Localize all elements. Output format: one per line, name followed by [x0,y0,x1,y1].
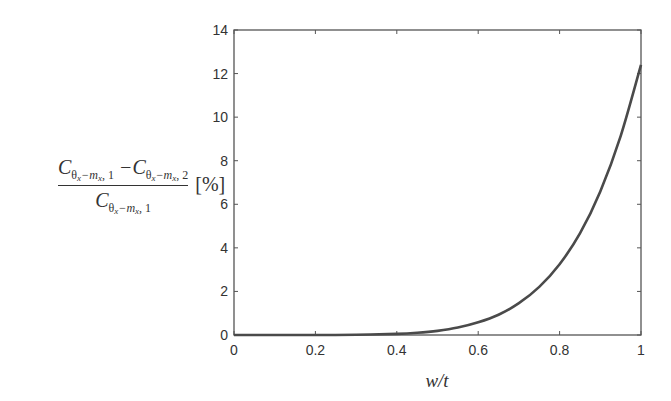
y-tick-label: 4 [220,240,228,256]
y-tick-label: 10 [212,109,228,125]
y-tick-label: 12 [212,66,228,82]
plot-area [234,30,641,335]
y-axis-label: Cθx−mx, 1 −Cθx−mx, 2 Cθx−mx, 1 [%] [58,156,225,216]
x-axis-label: w/t [425,370,449,391]
x-tick-label: 0.2 [306,342,326,358]
y-label-numerator: Cθx−mx, 1 −Cθx−mx, 2 [58,156,188,183]
y-label-unit: [%] [195,173,225,196]
x-tick-label: 0.6 [468,342,488,358]
x-tick-label: 0 [230,342,238,358]
y-tick-label: 2 [220,283,228,299]
y-tick-label: 0 [220,327,228,343]
y-tick-label: 14 [212,22,228,38]
fraction-bar [58,185,188,186]
y-label-denominator: Cθx−mx, 1 [58,189,188,216]
x-tick-label: 1 [637,342,645,358]
x-tick-label: 0.8 [550,342,570,358]
y-axis-label-fraction: Cθx−mx, 1 −Cθx−mx, 2 Cθx−mx, 1 [58,156,188,216]
x-tick-label: 0.4 [387,342,407,358]
